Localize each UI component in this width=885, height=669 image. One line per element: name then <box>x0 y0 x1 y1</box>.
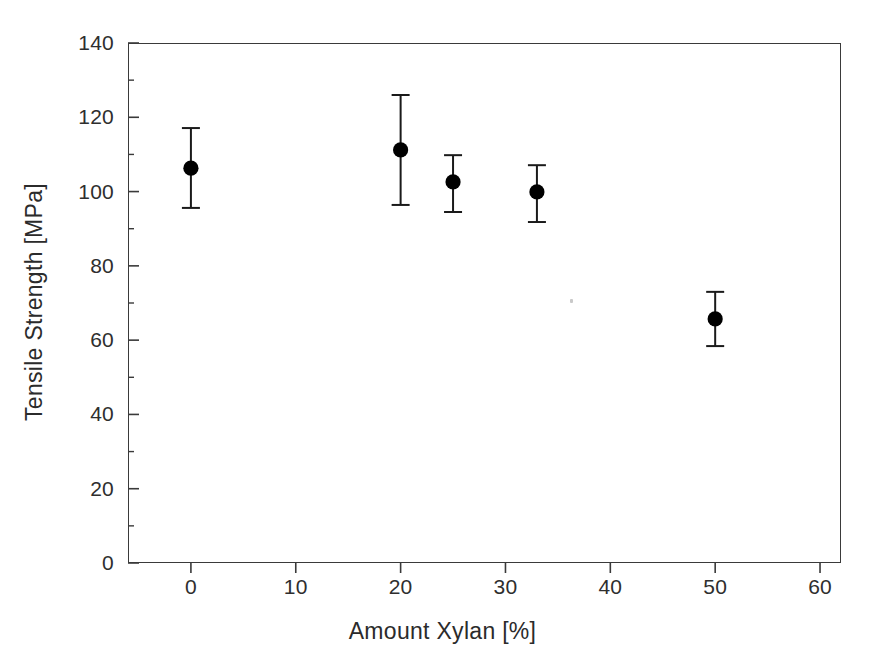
y-axis-tick-label: 140 <box>58 32 114 53</box>
x-axis-tick-label: 60 <box>790 576 850 597</box>
y-axis-tick-label: 80 <box>58 255 114 276</box>
x-axis-major-ticks <box>191 563 820 573</box>
x-axis-title: Amount Xylan [%] <box>0 618 885 644</box>
x-axis-tick-label: 30 <box>475 576 535 597</box>
y-axis-tick-label: 20 <box>58 478 114 499</box>
chart-figure: 020406080100120140 0102030405060 Amount … <box>0 0 885 669</box>
y-axis-tick-label: 60 <box>58 329 114 350</box>
x-axis-tick-label: 40 <box>580 576 640 597</box>
x-axis-tick-label: 20 <box>371 576 431 597</box>
x-axis-tick-label: 50 <box>685 576 745 597</box>
y-axis-tick-label: 120 <box>58 106 114 127</box>
y-axis-tick-label: 40 <box>58 403 114 424</box>
y-axis-title: Tensile Strength [MPa] <box>21 183 47 421</box>
y-axis-tick-label: 100 <box>58 181 114 202</box>
y-axis-tick-labels: 020406080100120140 <box>52 0 114 669</box>
scan-artifact-speck <box>570 299 573 303</box>
plot-area <box>128 43 841 563</box>
x-axis-tick-label: 10 <box>266 576 326 597</box>
x-axis-tick-labels: 0102030405060 <box>0 576 885 606</box>
x-axis-tick-label: 0 <box>161 576 221 597</box>
y-axis-tick-label: 0 <box>58 552 114 573</box>
y-axis-title-wrap: Tensile Strength [MPa] <box>20 22 48 582</box>
